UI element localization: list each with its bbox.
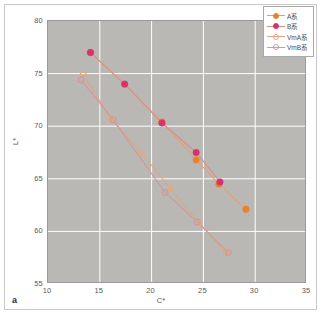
legend-label: VmB系 [285, 42, 308, 52]
plot-area [47, 20, 306, 283]
plot-canvas [48, 21, 306, 283]
x-tick-label: 10 [35, 286, 59, 295]
data-point [193, 149, 199, 155]
panel-label: a [12, 295, 17, 305]
legend-label: VmA系 [285, 32, 308, 42]
data-point [217, 179, 223, 185]
y-tick-label: 70 [21, 121, 43, 130]
x-tick-label: 15 [87, 286, 111, 295]
legend-label: B系 [285, 21, 298, 31]
data-point [78, 77, 84, 83]
data-point [193, 157, 199, 163]
legend-marker-dot [273, 13, 279, 19]
data-point [87, 49, 93, 55]
y-tick-label: 80 [21, 16, 43, 25]
legend-marker-icon [267, 11, 285, 20]
legend-item-2[interactable]: VmA系 [267, 32, 308, 42]
legend-marker-dot [273, 34, 279, 40]
y-axis-title: L* [11, 138, 20, 145]
series-markers [78, 49, 249, 255]
legend-marker-icon [267, 43, 285, 52]
chart-legend: A系B系VmA系VmB系 [263, 6, 314, 57]
legend-marker-icon [267, 32, 285, 41]
x-tick-label: 25 [190, 286, 214, 295]
data-point [243, 206, 249, 212]
legend-marker-dot [273, 23, 279, 29]
x-tick-label: 30 [242, 286, 266, 295]
legend-marker-icon [267, 22, 285, 31]
legend-item-0[interactable]: A系 [267, 11, 308, 21]
legend-item-1[interactable]: B系 [267, 21, 308, 31]
legend-label: A系 [285, 11, 298, 21]
data-point [159, 120, 165, 126]
chart-figure: 807570656055 101520253035 L* C* a A系B系Vm… [0, 0, 322, 315]
y-tick-label: 75 [21, 69, 43, 78]
x-axis-title: C* [0, 296, 322, 305]
y-tick-label: 60 [21, 226, 43, 235]
y-tick-label: 65 [21, 174, 43, 183]
x-tick-label: 35 [294, 286, 318, 295]
legend-marker-dot [273, 44, 279, 50]
legend-item-3[interactable]: VmB系 [267, 42, 308, 52]
data-point [121, 81, 127, 87]
gridlines [48, 21, 306, 283]
x-tick-label: 20 [139, 286, 163, 295]
series-lines [81, 53, 246, 253]
